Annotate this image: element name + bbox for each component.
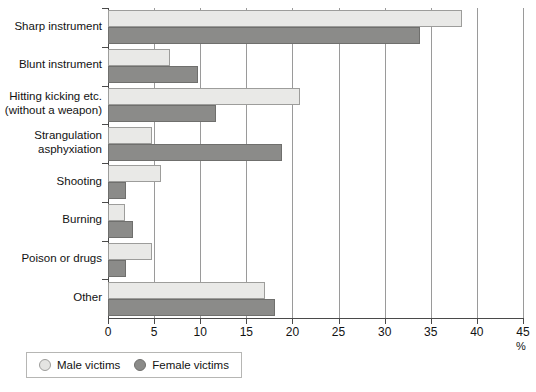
gridline xyxy=(523,8,524,318)
category-label-line: Shooting xyxy=(0,175,102,189)
bar-female xyxy=(108,144,282,161)
x-tick-label: 0 xyxy=(93,325,123,339)
category-label: Shooting xyxy=(0,175,102,189)
x-tick-mark xyxy=(200,319,201,324)
bar-chart: Sharp instrumentBlunt instrumentHitting … xyxy=(0,0,536,392)
axis-unit-label: % xyxy=(516,340,526,352)
bar-male xyxy=(108,10,462,27)
bar-female xyxy=(108,221,133,238)
category-label: Blunt instrument xyxy=(0,58,102,72)
category-label: Other xyxy=(0,291,102,305)
legend-swatch-female-icon xyxy=(134,359,146,371)
bar-female xyxy=(108,260,126,277)
x-tick-mark xyxy=(246,319,247,324)
category-label: Burning xyxy=(0,213,102,227)
bar-female xyxy=(108,66,198,83)
plot-area xyxy=(108,8,523,318)
legend-swatch-male-icon xyxy=(39,359,51,371)
bar-male xyxy=(108,243,152,260)
x-axis-line xyxy=(108,318,524,319)
gridline xyxy=(431,8,432,318)
category-label-line: Hitting kicking etc. xyxy=(0,90,102,104)
category-label-line: Strangulation xyxy=(0,129,102,143)
legend-label-male: Male victims xyxy=(57,359,120,371)
bar-male xyxy=(108,204,125,221)
category-label-line: Burning xyxy=(0,213,102,227)
y-tick-mark xyxy=(102,86,108,87)
y-tick-mark xyxy=(102,241,108,242)
x-tick-mark xyxy=(385,319,386,324)
gridline xyxy=(246,8,247,318)
y-tick-mark xyxy=(102,202,108,203)
bar-male xyxy=(108,282,265,299)
x-tick-mark xyxy=(292,319,293,324)
gridline xyxy=(200,8,201,318)
x-tick-label: 35 xyxy=(416,325,446,339)
category-label: Poison or drugs xyxy=(0,252,102,266)
x-tick-mark xyxy=(154,319,155,324)
gridline xyxy=(477,8,478,318)
y-tick-mark xyxy=(102,47,108,48)
category-label: Strangulationasphyxiation xyxy=(0,129,102,156)
gridline xyxy=(292,8,293,318)
bar-female xyxy=(108,299,275,316)
bar-male xyxy=(108,165,161,182)
category-label: Sharp instrument xyxy=(0,20,102,34)
x-tick-mark xyxy=(431,319,432,324)
x-tick-mark xyxy=(108,319,109,324)
gridline xyxy=(385,8,386,318)
x-tick-label: 5 xyxy=(139,325,169,339)
bar-female xyxy=(108,105,216,122)
x-tick-label: 25 xyxy=(324,325,354,339)
category-label-line: asphyxiation xyxy=(0,143,102,157)
bar-male xyxy=(108,127,152,144)
category-label-line: (without a weapon) xyxy=(0,104,102,118)
y-tick-mark xyxy=(102,124,108,125)
y-tick-mark xyxy=(102,8,108,9)
category-label-line: Poison or drugs xyxy=(0,252,102,266)
bar-female xyxy=(108,182,126,199)
x-tick-label: 20 xyxy=(277,325,307,339)
x-tick-label: 30 xyxy=(370,325,400,339)
bar-male xyxy=(108,49,170,66)
y-tick-mark xyxy=(102,279,108,280)
bar-male xyxy=(108,88,300,105)
category-label-line: Sharp instrument xyxy=(0,20,102,34)
x-tick-label: 45 xyxy=(508,325,536,339)
bar-female xyxy=(108,27,420,44)
y-tick-mark xyxy=(102,163,108,164)
legend-label-female: Female victims xyxy=(152,359,229,371)
category-label-line: Other xyxy=(0,291,102,305)
chart-legend: Male victims Female victims xyxy=(26,352,242,378)
category-label: Hitting kicking etc.(without a weapon) xyxy=(0,90,102,117)
x-tick-mark xyxy=(477,319,478,324)
x-tick-label: 40 xyxy=(462,325,492,339)
legend-item-male: Male victims xyxy=(39,359,120,371)
category-label-line: Blunt instrument xyxy=(0,58,102,72)
x-tick-label: 15 xyxy=(231,325,261,339)
x-tick-mark xyxy=(339,319,340,324)
x-tick-mark xyxy=(523,319,524,324)
x-tick-label: 10 xyxy=(185,325,215,339)
gridline xyxy=(339,8,340,318)
legend-item-female: Female victims xyxy=(134,359,229,371)
